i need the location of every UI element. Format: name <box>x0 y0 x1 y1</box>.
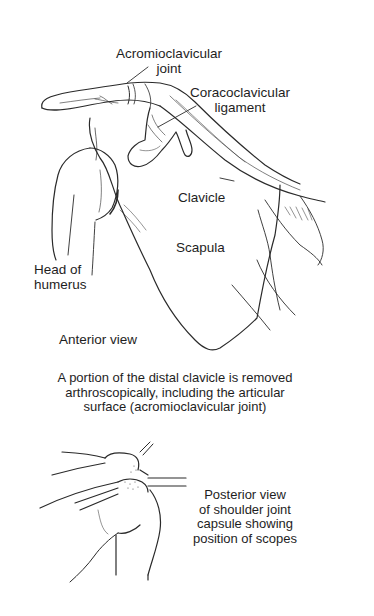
figure-caption: A portion of the distal clavicle is remo… <box>30 371 320 415</box>
label-line: Coracoclavicular <box>178 85 302 100</box>
label-line: Acromioclavicular <box>104 46 234 61</box>
caption-line: A portion of the distal clavicle is remo… <box>30 371 320 386</box>
caption-line: position of scopes <box>180 532 310 547</box>
label-line: humerus <box>34 277 87 292</box>
label-acromioclavicular-joint: Acromioclavicular joint <box>104 46 234 76</box>
caption-line: capsule showing <box>180 517 310 532</box>
scapula <box>89 118 323 350</box>
caption-line: Posterior view <box>180 488 310 503</box>
label-coracoclavicular-ligament: Coracoclavicular ligament <box>178 85 302 115</box>
posterior-shoulder-illustration <box>40 442 186 582</box>
label-line: ligament <box>178 100 302 115</box>
coracoid-process <box>128 108 192 167</box>
caption-line: of shoulder joint <box>180 503 310 518</box>
label-clavicle: Clavicle <box>178 190 225 205</box>
posterior-view-caption: Posterior view of shoulder joint capsule… <box>180 488 310 546</box>
label-line: Head of <box>34 262 87 277</box>
caption-line: arthroscopically, including the articula… <box>30 386 320 401</box>
humerus <box>52 148 146 275</box>
label-scapula: Scapula <box>176 240 225 255</box>
label-line: joint <box>104 61 234 76</box>
label-head-of-humerus: Head of humerus <box>34 262 87 292</box>
label-anterior-view: Anterior view <box>59 332 137 347</box>
caption-line: surface (acromioclavicular joint) <box>30 400 320 415</box>
